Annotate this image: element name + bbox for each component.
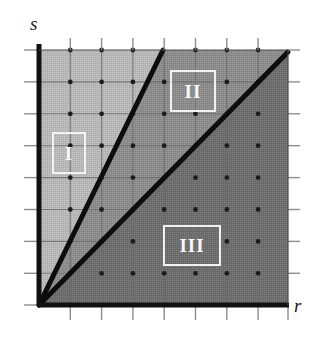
region-label-ii: II [170, 70, 216, 112]
region-partition-figure: s r I II III [0, 0, 325, 347]
figure-canvas [0, 0, 325, 347]
region-label-iii: III [163, 225, 221, 266]
region-label-i: I [52, 132, 86, 174]
x-axis-label: r [294, 296, 301, 315]
y-axis-label: s [30, 14, 37, 33]
